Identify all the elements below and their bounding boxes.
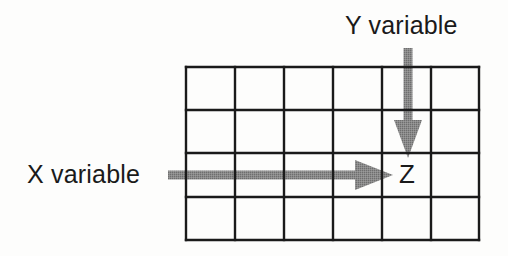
arrow-layer — [168, 48, 422, 190]
x-variable-arrow-shaft — [168, 171, 358, 180]
y-variable-label: Y variable — [345, 13, 458, 38]
target-cell-value: Z — [399, 161, 415, 187]
x-variable-arrow-head — [355, 160, 393, 190]
y-variable-arrow — [394, 48, 422, 158]
x-variable-label: X variable — [27, 162, 140, 187]
grid — [186, 67, 479, 240]
x-variable-arrow — [168, 160, 393, 190]
diagram-canvas: Y variable X variable Z — [0, 0, 508, 256]
